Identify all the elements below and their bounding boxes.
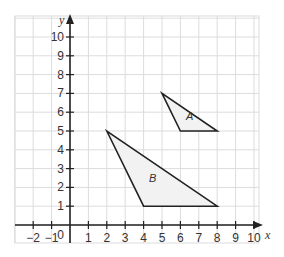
x-tick-label: 3 <box>122 231 129 245</box>
x-tick-label: 7 <box>195 231 202 245</box>
y-tick-label: 6 <box>57 105 64 119</box>
x-axis-label: x <box>264 228 271 242</box>
y-tick-label: 7 <box>57 86 64 100</box>
y-axis-label: y <box>58 13 65 27</box>
y-tick-label: 4 <box>57 143 64 157</box>
y-tick-label: 2 <box>57 180 64 194</box>
x-tick-label: 8 <box>214 231 221 245</box>
grid-lines <box>15 16 259 243</box>
x-tick-label: 2 <box>103 231 110 245</box>
y-tick-label: 10 <box>51 30 65 44</box>
y-tick-label: 8 <box>57 68 64 82</box>
tick-labels: xy−2−112345678910123456789100 <box>26 13 271 245</box>
x-tick-label: −2 <box>26 231 40 245</box>
x-tick-label: 6 <box>177 231 184 245</box>
x-tick-label: 10 <box>247 231 261 245</box>
y-tick-label: 5 <box>57 124 64 138</box>
x-tick-label: 4 <box>140 231 147 245</box>
origin-label: 0 <box>57 228 64 242</box>
y-tick-label: 1 <box>57 199 64 213</box>
triangle-label-b: B <box>149 172 156 184</box>
x-tick-label: 5 <box>159 231 166 245</box>
y-tick-label: 9 <box>57 49 64 63</box>
axes <box>15 14 263 243</box>
triangle-label-a: A <box>185 110 193 122</box>
y-tick-label: 3 <box>57 162 64 176</box>
coordinate-plane: AB xy−2−112345678910123456789100 <box>0 0 284 257</box>
x-tick-label: 1 <box>85 231 92 245</box>
x-tick-label: 9 <box>232 231 239 245</box>
